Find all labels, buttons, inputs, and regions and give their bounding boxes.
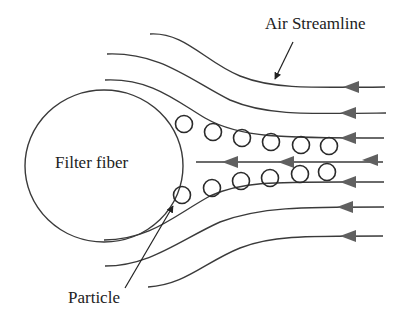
- streamline-5: [104, 182, 384, 240]
- arrow-icon: [340, 107, 356, 119]
- streamline-1: [150, 34, 385, 87]
- arrow-icon: [337, 201, 353, 213]
- particles-upper: [176, 116, 338, 155]
- arrow-icon: [340, 176, 356, 188]
- arrow-icon: [222, 156, 238, 168]
- arrow-icon: [340, 230, 356, 242]
- arrow-icon: [278, 156, 294, 168]
- particle: [319, 164, 336, 181]
- lower-streamlines: [104, 182, 384, 287]
- particle: [174, 187, 191, 204]
- particles-lower: [174, 164, 336, 204]
- upper-streamlines: [105, 34, 386, 138]
- filter-fiber-label: Filter fiber: [55, 153, 128, 173]
- particle: [262, 170, 279, 187]
- particle: [176, 116, 193, 133]
- streamline-2: [107, 54, 386, 114]
- particle: [292, 166, 309, 183]
- arrow-icon: [340, 132, 356, 144]
- streamline-7: [148, 236, 383, 287]
- particle-pointer: [125, 206, 173, 288]
- particle: [205, 124, 222, 141]
- arrow-icon: [362, 154, 378, 166]
- arrow-icon: [343, 81, 359, 93]
- particle: [293, 137, 310, 154]
- air-streamline-label: Air Streamline: [265, 14, 366, 34]
- particle: [204, 180, 221, 197]
- air-streamline-pointer: [275, 42, 293, 79]
- particle: [321, 138, 338, 155]
- particle-label: Particle: [68, 288, 120, 308]
